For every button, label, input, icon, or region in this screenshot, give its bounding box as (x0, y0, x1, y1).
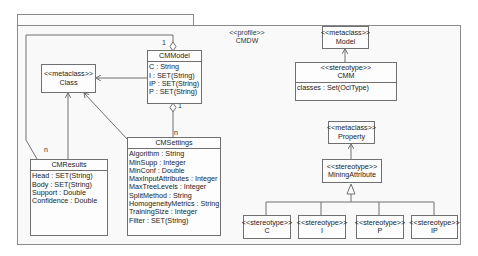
class-name: C (264, 227, 269, 235)
cmm-stereotype[interactable]: <<stereotype>> CMM classes : Set(OclType… (295, 62, 397, 101)
cmsettings-class[interactable]: CMSettings Algorithm : String MinSupp : … (127, 137, 221, 236)
dependency-settings-class (84, 93, 128, 140)
class-name: CMModel (148, 51, 201, 62)
class-metaclass[interactable]: <<metaclass>> Class (41, 64, 96, 93)
attribute: Filter : SET(String) (129, 217, 219, 225)
miningattribute-stereotype[interactable]: <<stereotype>> MiningAttribute (322, 159, 382, 183)
property-metaclass[interactable]: <<metaclass>> Property (328, 121, 375, 144)
attribute-list: classes : Set(OclType) (296, 83, 396, 92)
multiplicity-label: n (174, 129, 178, 137)
class-name: MiningAttribute (328, 171, 376, 179)
multiplicity-label: n (44, 146, 48, 154)
model-metaclass[interactable]: <<metaclass>> Model (322, 26, 369, 49)
class-name: Property (338, 133, 365, 141)
attribute: classes : Set(OclType) (297, 84, 395, 92)
class-name: CMResults (31, 160, 107, 171)
stereotype-ip[interactable]: <<stereotype>> IP (411, 215, 458, 239)
attribute-list: C : String I : SET(String) IP : SET(Stri… (148, 62, 201, 96)
attribute-list: Algorithm : String MinSupp : Integer Min… (128, 149, 220, 225)
class-name: CMSettings (128, 138, 220, 149)
class-name: CMM (296, 72, 396, 80)
class-name: P (378, 227, 383, 235)
stereotype-header: <<stereotype>> CMM (296, 63, 396, 83)
stereotype-c[interactable]: <<stereotype>> C (243, 215, 291, 239)
class-name: Model (336, 38, 356, 46)
class-name: Class (60, 79, 78, 87)
class-name: I (321, 227, 323, 235)
stereotype-p[interactable]: <<stereotype>> P (356, 215, 404, 239)
attribute: Confidence : Double (32, 197, 106, 205)
class-name: IP (431, 227, 438, 235)
stereotype-i[interactable]: <<stereotype>> I (298, 215, 346, 239)
attribute: P : SET(String) (149, 88, 200, 96)
attribute-list: Head : SET(String) Body : SET(String) Su… (31, 171, 107, 205)
generalization-tree (266, 184, 434, 215)
cmmodel-class[interactable]: CMModel C : String I : SET(String) IP : … (147, 50, 202, 104)
cmresults-class[interactable]: CMResults Head : SET(String) Body : SET(… (30, 159, 108, 236)
multiplicity-label: 1 (162, 39, 166, 47)
